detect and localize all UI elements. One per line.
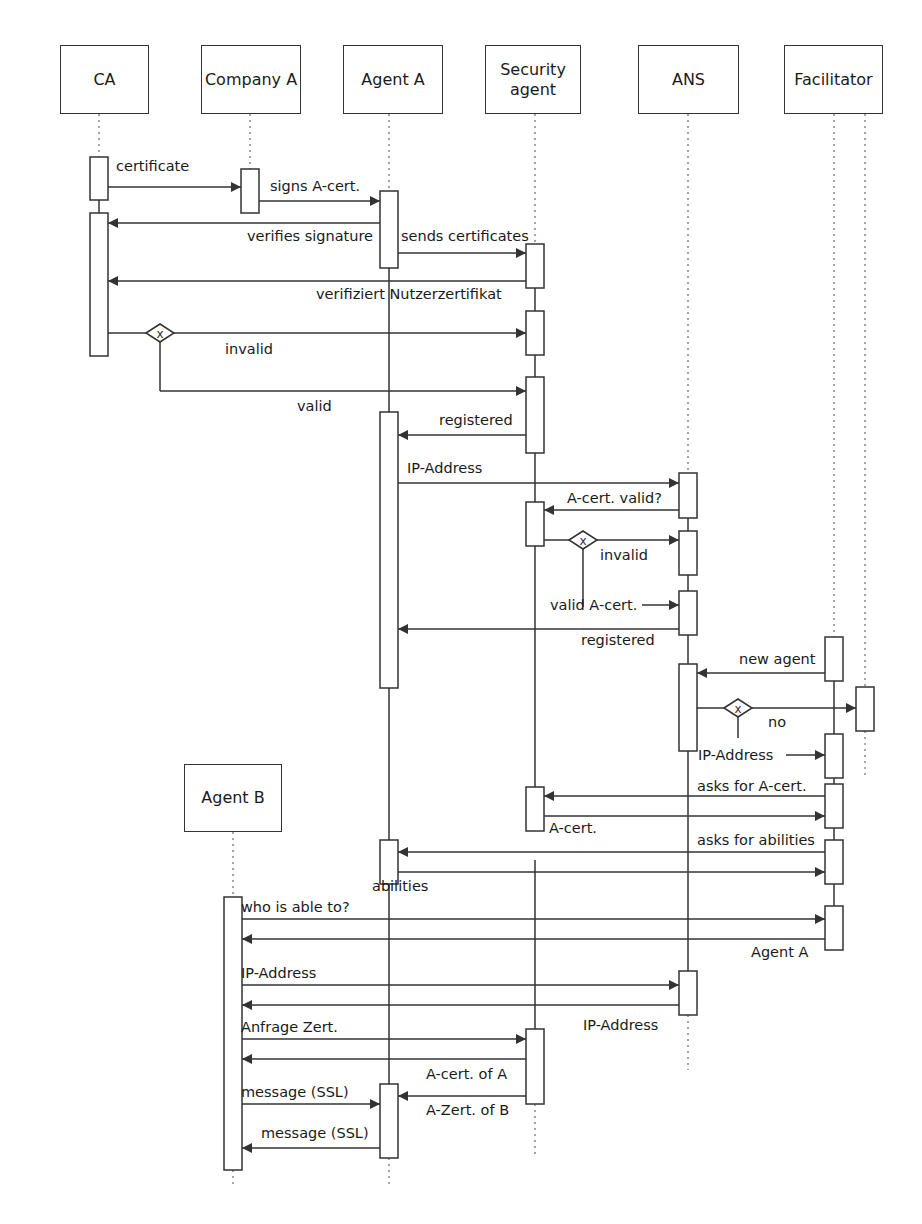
activation-bar — [679, 473, 697, 518]
message-label: A-cert. of A — [426, 1066, 507, 1082]
activation-bar — [90, 213, 108, 356]
message-label: verifiziert Nutzerzertifikat — [316, 286, 502, 302]
activation-bar — [90, 157, 108, 200]
participant-agent-b: Agent B — [184, 764, 282, 832]
message-label: valid — [297, 398, 332, 414]
message-label: invalid — [225, 341, 273, 357]
activation-bar — [679, 531, 697, 575]
message-label: A-cert. — [549, 820, 597, 836]
activation-bar — [679, 591, 697, 635]
activation-bar — [380, 1084, 398, 1158]
participant-label: CA — [93, 70, 115, 90]
activation-bar — [825, 734, 843, 778]
activation-bar — [825, 906, 843, 950]
message-label: IP-Address — [407, 460, 482, 476]
sequence-diagram: xxx CACompany AAgent ASecurity agentANSF… — [0, 0, 922, 1224]
message-label: signs A-cert. — [270, 178, 360, 194]
decision-diamond-icon: x — [569, 531, 597, 549]
message-label: who is able to? — [241, 899, 350, 915]
message-label: certificate — [116, 158, 189, 174]
activation-bar — [526, 244, 544, 288]
activation-bar — [380, 191, 398, 268]
message-label: no — [768, 714, 786, 730]
participant-security-agent: Security agent — [485, 45, 581, 114]
message-label: Anfrage Zert. — [241, 1019, 338, 1035]
message-label: message (SSL) — [261, 1125, 369, 1141]
activation-bar — [825, 637, 843, 681]
activation-bar — [856, 687, 874, 731]
svg-text:x: x — [156, 327, 163, 341]
participant-label: Agent B — [201, 788, 264, 808]
decision-diamond-icon: x — [146, 324, 174, 342]
svg-text:x: x — [579, 534, 586, 548]
message-label: registered — [581, 632, 655, 648]
activation-bar — [825, 784, 843, 828]
message-label: asks for abilities — [697, 832, 815, 848]
participant-label: Facilitator — [794, 70, 872, 90]
activation-bar — [526, 502, 544, 546]
message-label: A-cert. valid? — [567, 490, 662, 506]
activation-bar — [526, 1029, 544, 1104]
message-label: verifies signature — [247, 228, 373, 244]
message-label: valid A-cert. — [550, 597, 637, 613]
message-label: asks for A-cert. — [697, 778, 807, 794]
participant-label: ANS — [672, 70, 705, 90]
decision-diamond-icon: x — [724, 699, 752, 717]
svg-text:x: x — [734, 702, 741, 716]
activation-bar — [241, 169, 259, 213]
activation-bar — [825, 840, 843, 884]
participant-company-a: Company A — [201, 45, 301, 114]
activation-bar — [679, 664, 697, 751]
message-label: invalid — [600, 547, 648, 563]
message-label: A-Zert. of B — [426, 1102, 509, 1118]
activation-bar — [526, 311, 544, 355]
activation-bar — [526, 787, 544, 831]
message-label: IP-Address — [241, 965, 316, 981]
message-label: Agent A — [751, 944, 808, 960]
participant-label: Security agent — [498, 60, 568, 100]
participant-label: Company A — [205, 70, 297, 90]
message-label: abilities — [372, 878, 428, 894]
message-label: registered — [439, 412, 513, 428]
message-label: IP-Address — [698, 747, 773, 763]
activation-bar — [679, 971, 697, 1015]
message-label: new agent — [739, 651, 815, 667]
message-label: sends certificates — [401, 228, 529, 244]
participant-agent-a: Agent A — [343, 45, 443, 114]
participant-ca: CA — [60, 45, 149, 114]
message-label: message (SSL) — [241, 1084, 349, 1100]
activation-bar — [224, 897, 242, 1170]
participant-label: Agent A — [361, 70, 424, 90]
activation-bar — [526, 377, 544, 453]
participant-facilitator: Facilitator — [784, 45, 883, 114]
activation-bar — [380, 412, 398, 688]
message-label: IP-Address — [583, 1017, 658, 1033]
participant-ans: ANS — [638, 45, 739, 114]
diagram-lines: xxx — [0, 0, 922, 1224]
